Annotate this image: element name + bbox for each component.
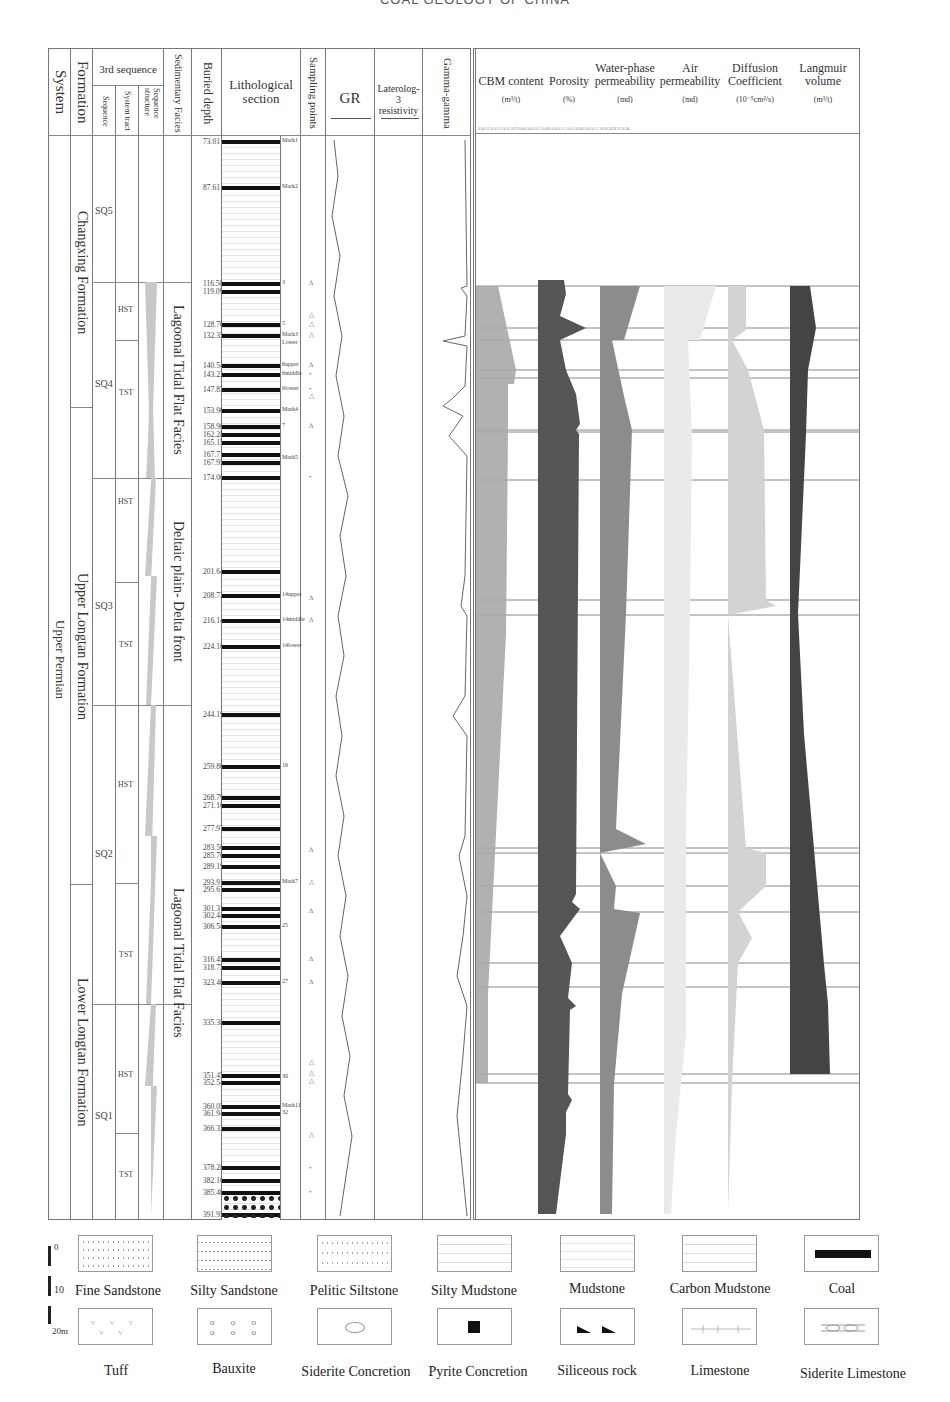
depth-label: 295.67 [203, 885, 224, 894]
param-cbm-title2: CBM content [476, 75, 546, 88]
formation-lower-longtan: Lower Longtan Formation [71, 887, 92, 1217]
depth-label: 87.61 [203, 183, 220, 192]
sampling-point-icon: • [309, 370, 311, 378]
param-header-diffusion: Diffusion Coefficient (10⁻⁵cm²/s) [722, 62, 788, 132]
seam-mark: 6middle [282, 370, 302, 376]
legend-label-limestone: Limestone [668, 1363, 772, 1379]
seam-mark: 32 [282, 1109, 288, 1115]
coal-seam [222, 594, 280, 598]
tract-tst: TST [119, 1170, 133, 1179]
sampling-point-icon: ∆ [309, 594, 313, 602]
legend-bauxite-swatch: o o oo o o [197, 1308, 272, 1345]
depth-label: 167.95 [203, 458, 224, 467]
depth-label: 73.01 [203, 137, 220, 146]
param-air-title2: permeability [658, 75, 722, 88]
system-label: Upper Permian [50, 560, 70, 760]
param-diffusion-unit: (10⁻⁵cm²/s) [722, 96, 788, 105]
legend-limestone-swatch [682, 1308, 757, 1345]
facies-deltaic: Deltaic plain- Delta front [164, 480, 191, 703]
legend-label-pyrite-concretion: Pyrite Concretion [420, 1364, 536, 1380]
tract-divider [115, 582, 138, 583]
legend-label-silty-mudstone: Silty Mudstone [422, 1283, 526, 1299]
scale-bar [48, 1276, 51, 1296]
coal-seam [222, 1081, 280, 1085]
seam-mark: Mark4 [282, 406, 298, 412]
header-buried-depth: Buried depth [193, 52, 221, 134]
sampling-point-icon: ∆ [309, 279, 313, 287]
coal-seam [222, 323, 280, 327]
depth-label: 385.40 [203, 1188, 224, 1197]
legend-coal-swatch [804, 1235, 879, 1272]
sampling-point-icon: ∆ [309, 616, 313, 624]
coal-seam [222, 907, 280, 911]
legend-label-tuff: Tuff [66, 1363, 166, 1379]
parameter-area-chart [476, 134, 860, 1220]
legend-label-siliceous-rock: Siliceous rock [545, 1363, 649, 1379]
coal-seam [222, 282, 280, 286]
sampling-point-icon: • [309, 1164, 311, 1172]
tract-hst: HST [118, 305, 133, 314]
laterolog-scale-arrow [381, 118, 419, 119]
sampling-point-icon: △ [309, 1058, 314, 1066]
sampling-point-icon: ∆ [309, 361, 313, 369]
coal-seam [222, 846, 280, 850]
coal-seam [222, 981, 280, 985]
seam-mark: 5 [282, 320, 285, 326]
sampling-point-icon: ∆ [309, 846, 313, 854]
facies-divider [163, 282, 191, 283]
sequence-sq3: SQ3 [95, 600, 113, 611]
sequence-sq2: SQ2 [95, 848, 113, 859]
coal-seam [222, 796, 280, 800]
coal-seam [222, 373, 280, 377]
header-lithological-section: Lithological section [222, 78, 300, 107]
legend-mudstone-swatch [560, 1235, 635, 1272]
sampling-point-icon: △ [309, 311, 314, 319]
coal-seam [222, 1179, 280, 1183]
sampling-point-icon: ∆ [309, 955, 313, 963]
sampling-point-icon: △ [309, 320, 314, 328]
coal-seam [222, 804, 280, 808]
tract-tst: TST [119, 950, 133, 959]
diffusion-area [728, 286, 776, 1214]
header-sampling-points: Sampling points [302, 52, 325, 134]
seam-mark: 16 [282, 762, 288, 768]
facies-divider [163, 478, 191, 479]
legend-label-silty-sandstone: Silty Sandstone [182, 1283, 286, 1299]
depth-label: 153.90 [203, 406, 224, 415]
coal-seam [222, 925, 280, 929]
seam-mark: Mark3 [282, 331, 298, 337]
legend-label-carbon-mudstone: Carbon Mudstone [662, 1281, 778, 1297]
tract-hst: HST [118, 497, 133, 506]
scale-bar [48, 1246, 51, 1266]
sequence-structure-wedges [139, 136, 163, 1220]
sequence-sq5: SQ5 [95, 205, 113, 216]
seam-mark: 6lower [282, 385, 299, 391]
coal-bar [815, 1250, 871, 1258]
legend-silty-sandstone-swatch [197, 1235, 272, 1272]
param-langmuir-title2: volume [788, 75, 858, 88]
legend-label-bauxite: Bauxite [182, 1361, 286, 1377]
coal-seam [222, 827, 280, 831]
seam-mark: Mark7 [282, 878, 298, 884]
coal-seam [222, 1105, 280, 1109]
sampling-point-icon: △ [309, 1131, 314, 1139]
tract-hst: HST [118, 1070, 133, 1079]
coal-seam [222, 461, 280, 465]
seam-mark: 14lower [282, 642, 302, 648]
header-formation: Formation [72, 52, 92, 132]
depth-label: 244.19 [203, 710, 224, 719]
sampling-point-icon: ∆ [309, 978, 313, 986]
depth-label: 208.72 [203, 591, 224, 600]
param-langmuir-unit: (m³/t) [788, 96, 858, 105]
depth-label: 382.10 [203, 1176, 224, 1185]
tract-divider [115, 1133, 138, 1134]
siderite-ellipse [345, 1322, 365, 1333]
header-gr: GR [326, 90, 374, 107]
depth-label: 306.54 [203, 922, 224, 931]
scale-label-10: 10 [54, 1284, 64, 1295]
seam-mark: 3 [282, 279, 285, 285]
depth-label: 361.94 [203, 1109, 224, 1118]
legend-pyrite-concretion-swatch [437, 1308, 512, 1345]
water-perm-area [600, 286, 646, 1214]
siliceous-triangles [561, 1309, 636, 1346]
